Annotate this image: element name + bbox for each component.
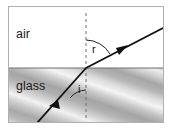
air-label: air (16, 27, 30, 41)
glass-label: glass (16, 79, 45, 93)
angle-i-label: i (78, 83, 80, 95)
diagram-canvas: air glass r i (0, 0, 174, 133)
refraction-diagram: air glass r i (0, 0, 174, 133)
glass-region (9, 68, 163, 122)
angle-r-label: r (92, 43, 96, 55)
